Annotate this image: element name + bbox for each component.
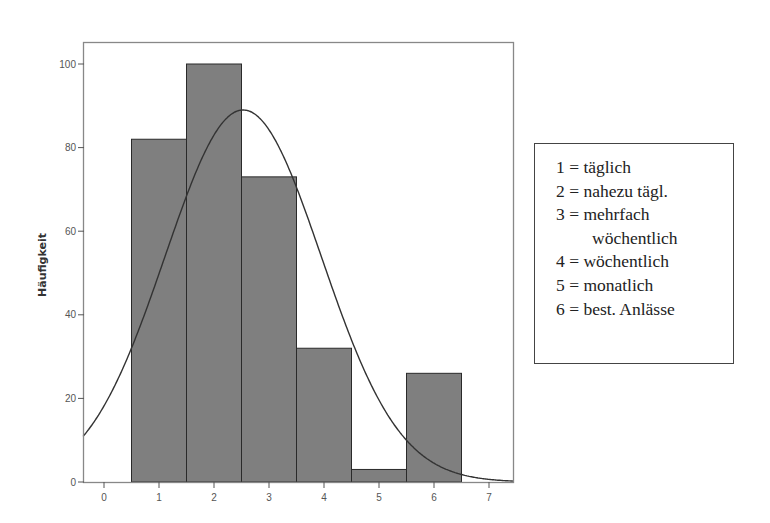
histogram-bar-5 (352, 469, 407, 482)
x-tick-label: 2 (211, 492, 217, 503)
histogram-bar-4 (297, 348, 352, 482)
legend-item-6: 6 = best. Anlässe (556, 298, 733, 322)
x-tick-label: 7 (486, 492, 492, 503)
legend-item-5: 5 = monatlich (556, 274, 733, 298)
y-tick-label: 60 (65, 226, 77, 237)
legend-item-1: 1 = täglich (556, 156, 733, 180)
x-tick-label: 5 (376, 492, 382, 503)
legend-item-3-continued: wöchentlich (556, 227, 733, 251)
y-axis-title: Häufigkeit (36, 233, 49, 297)
x-tick-label: 3 (266, 492, 272, 503)
y-tick-label: 40 (65, 309, 77, 320)
category-legend: 1 = täglich 2 = nahezu tägl. 3 = mehrfac… (534, 143, 734, 364)
histogram-bar-3 (242, 177, 297, 482)
legend-item-3: 3 = mehrfach (556, 203, 733, 227)
x-tick-label: 0 (101, 492, 107, 503)
y-tick-label: 80 (65, 142, 77, 153)
histogram-bar-2 (187, 64, 242, 482)
histogram-bar-1 (132, 139, 187, 482)
y-axis: 020406080100 (59, 59, 84, 488)
histogram-bar-6 (407, 373, 462, 482)
legend-item-4: 4 = wöchentlich (556, 250, 733, 274)
histogram-bars (132, 64, 462, 482)
y-tick-label: 0 (70, 477, 76, 488)
x-tick-label: 6 (431, 492, 437, 503)
y-tick-label: 100 (59, 59, 76, 70)
x-tick-label: 4 (321, 492, 327, 503)
x-tick-label: 1 (156, 492, 162, 503)
x-axis: 01234567 (101, 482, 492, 503)
y-tick-label: 20 (65, 393, 77, 404)
legend-item-2: 2 = nahezu tägl. (556, 180, 733, 204)
